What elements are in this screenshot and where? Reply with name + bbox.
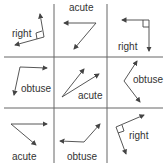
cell-label: obtuse (21, 84, 51, 94)
cell-label: obtuse (67, 152, 97, 162)
acute-angle-2-0 (11, 124, 47, 145)
acute-angle-0-1 (64, 23, 96, 49)
cell-label: acute (78, 91, 102, 101)
cell-label: acute (12, 152, 36, 162)
cell-label: acute (69, 3, 93, 13)
cell-label: right (12, 29, 31, 39)
cell-label: obtuse (133, 75, 163, 85)
cell-label: right (129, 131, 148, 141)
cell-label: right (118, 42, 137, 52)
obtuse-angle-2-1 (60, 124, 100, 142)
